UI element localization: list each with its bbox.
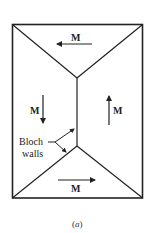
magnetization-label-right: M — [113, 105, 123, 116]
magnetization-label-top: M — [71, 32, 81, 43]
caption-close-paren: ) — [80, 219, 83, 229]
magnetization-label-bottom: M — [71, 183, 81, 194]
wall-top-left-diagonal — [13, 25, 77, 78]
wall-top-right-diagonal — [77, 25, 142, 78]
domain-bottom: M — [58, 180, 95, 194]
wall-bottom-right-diagonal — [77, 146, 142, 198]
domain-top: M — [57, 32, 92, 44]
domain-left: M — [30, 95, 43, 123]
magnetization-label-left: M — [30, 105, 40, 116]
annotation-text-line2: walls — [22, 148, 43, 159]
domain-right: M — [109, 96, 123, 125]
pointer-arrow-upper-icon — [55, 129, 74, 142]
annotation-text-line1: Bloch — [19, 136, 43, 147]
pointer-arrow-lower-icon — [55, 142, 66, 152]
magnetic-domain-diagram: M M M M Bloch walls (a) — [0, 0, 155, 233]
figure-caption: (a) — [72, 219, 83, 229]
